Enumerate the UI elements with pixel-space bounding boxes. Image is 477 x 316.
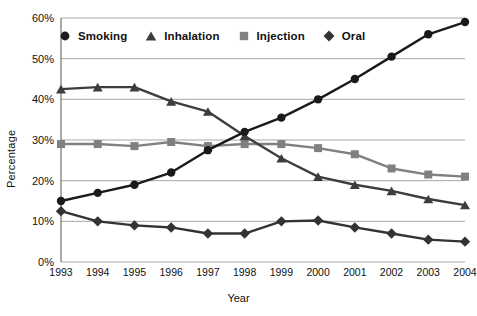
y-tick-label: 60%: [14, 12, 54, 24]
data-point-circle: [387, 52, 395, 60]
data-point-diamond: [93, 216, 103, 226]
legend-marker-square-icon: [237, 29, 251, 43]
data-point-triangle: [146, 31, 157, 40]
data-point-diamond: [56, 206, 66, 216]
x-tick-label: 2002: [380, 266, 403, 278]
data-point-circle: [314, 95, 322, 103]
data-point-square: [388, 164, 396, 172]
legend-item-smoking[interactable]: Smoking: [58, 29, 127, 43]
y-tick-label: 10%: [14, 215, 54, 227]
legend-label: Inhalation: [164, 30, 219, 42]
data-point-square: [277, 140, 285, 148]
data-point-square: [130, 142, 138, 150]
x-tick-label: 1993: [49, 266, 72, 278]
data-point-circle: [204, 146, 212, 154]
data-point-square: [239, 32, 247, 40]
legend-marker-triangle-icon: [144, 29, 158, 43]
x-axis-title: Year: [0, 292, 477, 304]
data-point-circle: [461, 18, 469, 26]
legend-marker-diamond-icon: [322, 29, 336, 43]
legend-label: Smoking: [78, 30, 127, 42]
legend-label: Injection: [257, 30, 305, 42]
x-axis-tick-labels: 1993199419951996199719981999200020012002…: [0, 266, 477, 284]
line-chart: Percentage 0%10%20%30%40%50%60% 19931994…: [0, 0, 477, 316]
series-smoking: [57, 18, 469, 205]
data-point-square: [461, 173, 469, 181]
data-point-circle: [424, 30, 432, 38]
data-point-circle: [167, 168, 175, 176]
x-tick-label: 1998: [233, 266, 256, 278]
y-tick-label: 30%: [14, 134, 54, 146]
data-point-circle: [240, 128, 248, 136]
x-tick-label: 1999: [270, 266, 293, 278]
data-point-square: [241, 140, 249, 148]
y-tick-label: 40%: [14, 93, 54, 105]
y-tick-label: 20%: [14, 175, 54, 187]
data-point-square: [94, 140, 102, 148]
chart-legend: SmokingInhalationInjectionOral: [58, 27, 382, 45]
data-point-square: [424, 171, 432, 179]
x-tick-label: 1997: [196, 266, 219, 278]
x-tick-label: 2001: [343, 266, 366, 278]
legend-item-oral[interactable]: Oral: [322, 29, 365, 43]
series-line: [61, 22, 465, 201]
x-tick-label: 1996: [159, 266, 182, 278]
data-point-diamond: [323, 31, 334, 42]
x-tick-label: 1994: [86, 266, 109, 278]
legend-item-injection[interactable]: Injection: [237, 29, 305, 43]
data-point-circle: [277, 113, 285, 121]
data-point-diamond: [350, 222, 360, 232]
x-tick-label: 1995: [123, 266, 146, 278]
legend-item-inhalation[interactable]: Inhalation: [144, 29, 219, 43]
data-point-diamond: [203, 228, 213, 238]
data-point-diamond: [239, 228, 249, 238]
data-point-square: [167, 138, 175, 146]
data-point-diamond: [313, 215, 323, 225]
data-point-diamond: [386, 228, 396, 238]
data-point-square: [57, 140, 65, 148]
data-point-circle: [94, 189, 102, 197]
x-tick-label: 2003: [417, 266, 440, 278]
legend-marker-circle-icon: [58, 29, 72, 43]
y-tick-label: 50%: [14, 53, 54, 65]
data-point-diamond: [460, 236, 470, 246]
data-point-diamond: [276, 216, 286, 226]
data-point-diamond: [423, 234, 433, 244]
x-tick-label: 2004: [453, 266, 476, 278]
series-line: [61, 211, 465, 242]
series-injection: [57, 138, 469, 181]
data-point-circle: [61, 32, 70, 41]
data-point-circle: [130, 181, 138, 189]
data-point-square: [314, 144, 322, 152]
x-tick-label: 2000: [306, 266, 329, 278]
series-oral: [56, 206, 470, 247]
legend-label: Oral: [342, 30, 365, 42]
data-point-diamond: [166, 222, 176, 232]
data-point-circle: [57, 197, 65, 205]
data-point-square: [351, 150, 359, 158]
data-point-circle: [351, 75, 359, 83]
